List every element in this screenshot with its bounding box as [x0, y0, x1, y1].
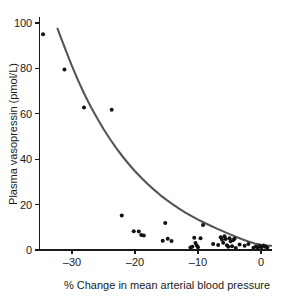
data-point [201, 223, 205, 227]
x-tick-label: –30 [63, 256, 81, 268]
x-tick-label: –10 [189, 256, 207, 268]
plot-background [0, 0, 292, 298]
data-point [41, 32, 45, 36]
data-point [120, 214, 124, 218]
data-point [190, 245, 194, 249]
data-point [82, 105, 86, 109]
data-point [246, 242, 250, 246]
data-point [196, 245, 200, 249]
data-point [234, 246, 238, 250]
data-point [110, 108, 114, 112]
y-tick-label: 80 [20, 62, 32, 74]
data-point [137, 229, 141, 233]
data-point [230, 244, 234, 248]
x-tick-label: –20 [126, 256, 144, 268]
data-point [142, 233, 146, 237]
data-point [161, 239, 165, 243]
y-axis-title: Plasma vasopressin (pmol/L) [7, 63, 19, 205]
scatter-plot: –30–20–100 020406080100 % Change in mean… [0, 0, 292, 298]
chart-figure: –30–20–100 020406080100 % Change in mean… [0, 0, 292, 298]
data-point [233, 237, 237, 241]
data-point [199, 236, 203, 240]
data-point [238, 243, 242, 247]
data-point [243, 244, 247, 248]
y-tick-label: 60 [20, 108, 32, 120]
y-tick-label: 20 [20, 199, 32, 211]
data-point [211, 242, 215, 246]
x-tick-label: 0 [258, 256, 264, 268]
y-tick-label: 100 [14, 17, 32, 29]
data-point [226, 245, 230, 249]
data-point [62, 68, 66, 72]
data-point [265, 246, 269, 250]
y-tick-label: 0 [26, 244, 32, 256]
data-point [170, 239, 174, 243]
y-tick-label: 40 [20, 153, 32, 165]
x-axis-title: % Change in mean arterial blood pressure [64, 279, 270, 291]
data-point [224, 237, 228, 241]
data-point [163, 221, 167, 225]
data-point [216, 243, 220, 247]
data-point [166, 237, 170, 241]
data-point [192, 236, 196, 240]
data-point [132, 229, 136, 233]
data-point [221, 241, 225, 245]
